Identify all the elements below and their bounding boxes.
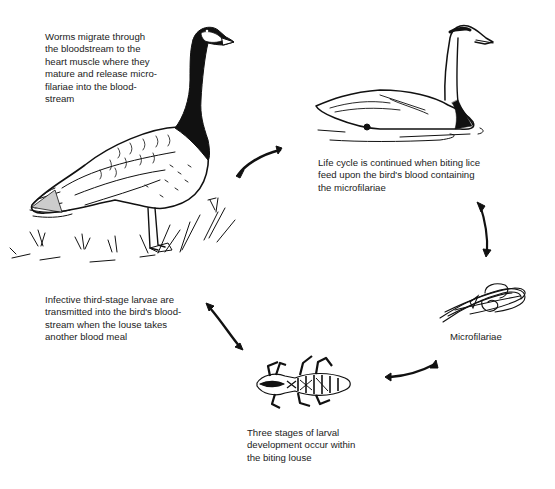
arrow-left-icon	[385, 360, 438, 381]
biting-louse-illustration	[257, 356, 350, 408]
caption-transmission: Infective third-stage larvae are transmi…	[45, 294, 235, 344]
arrow-down-icon	[477, 202, 491, 257]
arrow-up-right-icon	[236, 146, 282, 178]
swan-illustration	[316, 26, 493, 142]
microfilariae-illustration	[440, 284, 525, 322]
caption-adult-worms: Worms migrate through the bloodstream to…	[45, 31, 195, 105]
caption-microfilariae: Microfilariae	[450, 331, 540, 343]
caption-larval-development: Three stages of larval development occur…	[247, 427, 407, 464]
caption-lice-feeding: Life cycle is continued when biting lice…	[318, 157, 538, 194]
